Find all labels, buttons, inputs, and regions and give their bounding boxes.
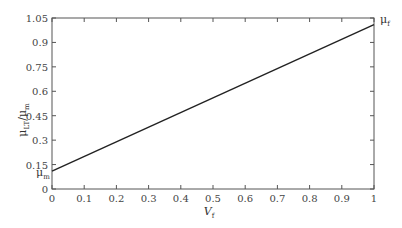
mu-m-annotation: μm <box>36 166 50 181</box>
x-tick-label: 0.9 <box>334 193 350 204</box>
y-tick-label: 0.3 <box>32 135 48 146</box>
x-tick-label: 1 <box>371 193 377 204</box>
x-tick-label: 0.2 <box>108 193 124 204</box>
x-tick-label: 0 <box>49 193 55 204</box>
x-tick-label: 0.4 <box>173 193 189 204</box>
y-tick-label: 0.6 <box>32 86 48 97</box>
x-tick-label: 0.7 <box>269 193 285 204</box>
x-tick-label: 0.8 <box>302 193 318 204</box>
chart: 00.10.20.30.40.50.60.70.80.91 00.150.30.… <box>0 0 402 228</box>
plot-frame <box>52 18 374 189</box>
y-tick-label: 0.75 <box>26 62 48 73</box>
x-tick-label: 0.1 <box>76 193 92 204</box>
y-tick-label: 1.05 <box>26 13 48 24</box>
y-tick-label: 0 <box>42 184 48 195</box>
y-tick-label: 0.45 <box>26 111 48 122</box>
data-line <box>52 25 374 172</box>
mu-f-annotation: μf <box>380 13 391 28</box>
x-tick-label: 0.5 <box>205 193 221 204</box>
y-tick-label: 0.9 <box>32 37 48 48</box>
y-axis-label: μLT/μm <box>16 103 31 137</box>
x-axis-label: Vf <box>204 205 216 220</box>
x-tick-label: 0.6 <box>237 193 253 204</box>
x-tick-label: 0.3 <box>141 193 157 204</box>
